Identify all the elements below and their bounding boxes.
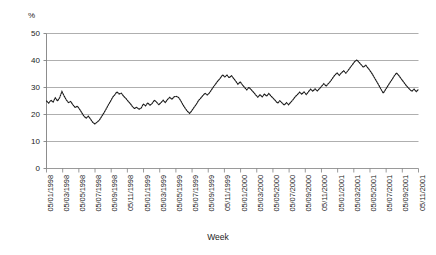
x-tick-label: 05/01/1998: [47, 175, 55, 212]
x-tick-label: 05/09/2001: [402, 175, 410, 212]
y-tick-label: 30: [18, 84, 40, 92]
chart-container: % 01020304050 05/01/199805/03/199805/05/…: [0, 0, 436, 255]
y-tick-label: 0: [18, 165, 40, 173]
x-tick-label: 05/05/1999: [176, 175, 184, 212]
x-tick-label: 05/03/1998: [63, 175, 71, 212]
x-tick-label: 05/07/1998: [95, 175, 103, 212]
x-tick-label: 05/11/1998: [127, 175, 135, 211]
line-chart-plot: [0, 0, 436, 255]
x-tick-label: 05/05/2000: [273, 175, 281, 212]
x-tick-label: 05/01/2001: [338, 175, 346, 212]
y-tick-label: 50: [18, 30, 40, 38]
x-tick-label: 05/09/1998: [111, 175, 119, 212]
x-tick-label: 05/05/2001: [370, 175, 378, 212]
x-tick-label: 05/03/2001: [354, 175, 362, 212]
y-tick-label: 20: [18, 111, 40, 119]
x-tick-label: 05/01/1999: [144, 175, 152, 212]
x-tick-label: 05/11/2001: [419, 175, 427, 211]
x-tick-label: 05/11/1999: [224, 175, 232, 211]
x-tick-label: 05/09/2000: [305, 175, 313, 212]
y-tick-label: 10: [18, 138, 40, 146]
x-tick-label: 05/11/2000: [321, 175, 329, 211]
x-tick-label: 05/07/2001: [386, 175, 394, 212]
x-tick-label: 05/07/2000: [289, 175, 297, 212]
y-tick-label: 40: [18, 57, 40, 65]
x-tick-label: 05/03/1999: [160, 175, 168, 212]
x-axis-title: Week: [0, 232, 436, 242]
x-tick-label: 05/07/1999: [192, 175, 200, 212]
x-tick-label: 05/09/1999: [208, 175, 216, 212]
x-tick-label: 05/05/1998: [79, 175, 87, 212]
x-tick-label: 05/03/2000: [257, 175, 265, 212]
x-tick-label: 05/01/2000: [241, 175, 249, 212]
